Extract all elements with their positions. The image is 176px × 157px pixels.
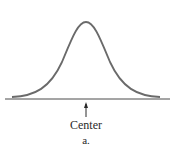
bell-curve — [12, 22, 160, 97]
center-arrow-icon — [84, 102, 88, 108]
caption-label: a. — [56, 134, 116, 146]
center-label: Center — [56, 118, 116, 133]
